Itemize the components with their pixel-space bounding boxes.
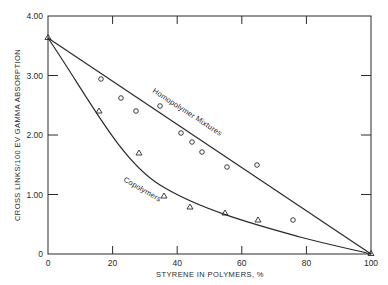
copolymer-label: Copolymers [122,175,163,204]
x-tick-label: 40 [172,258,182,268]
circle-marker [158,104,163,109]
circle-marker [255,163,260,168]
circle-marker [99,77,104,82]
y-tick-label: 1.00 [26,190,43,200]
y-tick-label: 4.00 [26,11,43,21]
triangle-marker [187,204,193,209]
y-axis-title: CROSS LINKS/100 EV GAMMA ABSORPTION [13,49,22,221]
x-axis-title: STYRENE IN POLYMERS, % [156,270,264,279]
circle-marker [200,150,205,155]
y-tick-label: 3.00 [26,71,43,81]
triangle-marker [136,150,142,155]
chart: 0 20 40 60 80 100 0 1.00 2.00 3.00 4.00 … [0,0,388,285]
x-tick-label: 20 [108,258,118,268]
y-tick-label: 0 [38,249,43,259]
homopolymer-points [99,77,296,223]
homopolymer-fit-line [48,38,371,254]
y-tick-label: 2.00 [26,130,43,140]
x-tick-label: 100 [364,258,378,268]
circle-marker [190,140,195,145]
circle-marker [179,131,184,136]
x-tick-labels: 0 20 40 60 80 100 [46,258,379,268]
x-tick-label: 0 [46,258,51,268]
y-tick-labels: 0 1.00 2.00 3.00 4.00 [26,11,43,259]
circle-marker [134,109,139,114]
tick-marks [48,16,371,254]
triangle-marker [255,217,261,222]
triangle-marker [96,108,102,113]
x-tick-label: 80 [302,258,312,268]
circle-marker [291,218,296,223]
circle-marker [225,165,230,170]
homopolymer-label: Homopolymer Mixtures [151,86,224,138]
circle-marker [119,96,124,101]
x-tick-label: 60 [237,258,247,268]
plot-frame [48,16,371,254]
